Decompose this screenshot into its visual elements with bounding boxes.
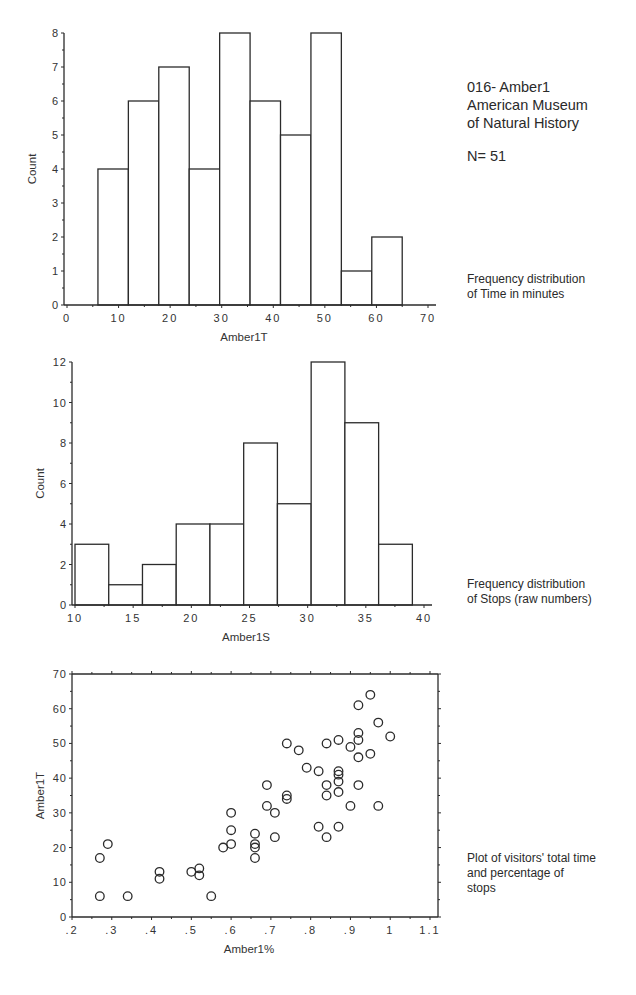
histogram-bar xyxy=(189,169,219,305)
charts-canvas: 012345678010203040506070Amber1TCount0246… xyxy=(0,0,636,995)
x-tick-label: 10 xyxy=(110,312,126,324)
scatter-point xyxy=(263,802,272,811)
scatter-point xyxy=(346,743,355,752)
scatter-point xyxy=(207,892,216,901)
histogram-bar xyxy=(98,169,128,305)
x-tick-label: 60 xyxy=(368,312,384,324)
y-tick-label: 40 xyxy=(53,772,67,784)
x-tick-label: 30 xyxy=(300,612,316,624)
x-axis-label: Amber1T xyxy=(220,331,267,343)
histogram-bar xyxy=(142,565,176,606)
x-tick-label: 50 xyxy=(317,312,333,324)
x-tick-label: 20 xyxy=(162,312,178,324)
x-tick-label: 40 xyxy=(265,312,281,324)
y-tick-label: 10 xyxy=(53,876,67,888)
title-line-2: American Museum xyxy=(467,96,588,114)
histogram-bar xyxy=(281,135,311,305)
scatter-point xyxy=(227,840,236,849)
x-tick-label: 1 xyxy=(386,924,394,936)
x-tick-label: .5 xyxy=(185,924,198,936)
y-tick-label: 7 xyxy=(52,61,59,73)
histogram-bar xyxy=(244,443,278,605)
caption-line: of Time in minutes xyxy=(467,287,585,302)
y-axis-label: Count xyxy=(34,467,46,498)
x-tick-label: 1.1 xyxy=(419,924,440,936)
histogram-bar xyxy=(220,33,250,305)
histogram-bar xyxy=(277,504,311,605)
scatter-point xyxy=(334,736,343,745)
scatter-point xyxy=(271,833,280,842)
histogram-bar xyxy=(250,101,280,305)
histogram-bar xyxy=(109,585,143,605)
x-tick-label: 0 xyxy=(63,312,71,324)
y-tick-label: 0 xyxy=(60,599,67,611)
y-tick-label: 60 xyxy=(53,703,67,715)
caption-line: stops xyxy=(467,881,596,896)
y-tick-label: 12 xyxy=(53,356,67,368)
histogram-bar xyxy=(372,237,402,305)
scatter-point xyxy=(187,868,196,877)
scatter-point xyxy=(314,822,323,831)
scatter-point xyxy=(123,892,132,901)
y-tick-label: 1 xyxy=(52,265,59,277)
scatter-point xyxy=(322,791,331,800)
scatter-point xyxy=(219,843,228,852)
y-tick-label: 50 xyxy=(53,737,67,749)
scatter-point xyxy=(251,829,260,838)
scatter-point xyxy=(314,767,323,776)
y-tick-label: 8 xyxy=(52,27,59,39)
x-tick-label: .3 xyxy=(105,924,118,936)
histogram-time: 012345678010203040506070Amber1TCount xyxy=(26,27,436,343)
caption-stops-histogram: Frequency distribution of Stops (raw num… xyxy=(467,577,592,607)
caption-line: and percentage of xyxy=(467,866,596,881)
y-tick-label: 30 xyxy=(53,807,67,819)
scatter-point xyxy=(251,854,260,863)
scatter-point xyxy=(263,781,272,790)
scatter-point xyxy=(322,781,331,790)
x-tick-label: 30 xyxy=(214,312,230,324)
y-tick-label: 6 xyxy=(52,95,59,107)
y-tick-label: 4 xyxy=(52,163,59,175)
caption-line: Plot of visitors' total time xyxy=(467,851,596,866)
scatter-point xyxy=(366,691,375,700)
histogram-bar xyxy=(75,544,109,605)
x-axis-label: Amber1% xyxy=(224,943,275,955)
x-tick-label: 35 xyxy=(358,612,374,624)
scatter-point xyxy=(334,788,343,797)
y-tick-label: 5 xyxy=(52,129,59,141)
histogram-bar xyxy=(341,271,371,305)
x-tick-label: .2 xyxy=(65,924,78,936)
y-tick-label: 4 xyxy=(60,518,67,530)
scatter-point xyxy=(302,763,311,772)
y-tick-label: 3 xyxy=(52,197,59,209)
histogram-bar xyxy=(176,524,210,605)
histogram-stops: 02468101210152025303540Amber1SCount xyxy=(34,356,432,643)
x-tick-label: .6 xyxy=(225,924,238,936)
y-tick-label: 20 xyxy=(53,842,67,854)
y-tick-label: 10 xyxy=(53,397,67,409)
scatter-point xyxy=(294,746,303,755)
scatter-point xyxy=(374,718,383,727)
scatter-point xyxy=(96,892,105,901)
sample-size-label: N= 51 xyxy=(467,148,506,164)
y-tick-label: 2 xyxy=(60,559,67,571)
scatter-point xyxy=(96,854,105,863)
y-tick-label: 2 xyxy=(52,231,59,243)
y-tick-label: 6 xyxy=(60,478,67,490)
scatter-point xyxy=(354,781,363,790)
scatter-point xyxy=(346,802,355,811)
scatter-point xyxy=(271,809,280,818)
x-tick-label: 20 xyxy=(183,612,199,624)
scatter-point xyxy=(354,753,363,762)
title-line-3: of Natural History xyxy=(467,114,588,132)
scatter-point xyxy=(283,739,292,748)
histogram-bar xyxy=(345,423,379,605)
scatter-point xyxy=(322,833,331,842)
x-tick-label: .8 xyxy=(304,924,317,936)
caption-line: Frequency distribution xyxy=(467,577,592,592)
scatter-point xyxy=(322,739,331,748)
scatter-point xyxy=(366,750,375,759)
y-tick-label: 0 xyxy=(52,299,59,311)
dataset-title: 016- Amber1 American Museum of Natural H… xyxy=(467,78,588,132)
histogram-bar xyxy=(311,33,341,305)
